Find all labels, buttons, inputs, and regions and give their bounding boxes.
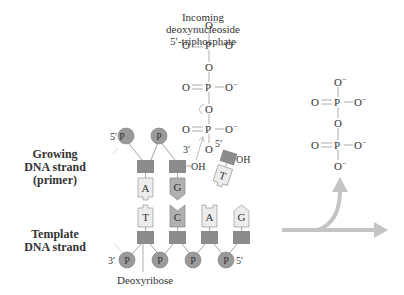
sugar-icon <box>233 231 250 244</box>
svg-text:O: O <box>311 96 319 108</box>
phosphate-label: P <box>157 255 163 266</box>
svg-text:O: O <box>334 117 342 129</box>
svg-text:O−: O− <box>225 38 238 51</box>
primer-3-oh: OH <box>191 161 205 172</box>
svg-text:P: P <box>334 96 340 108</box>
reaction-arrow <box>282 177 388 238</box>
svg-text:O−: O− <box>354 138 367 151</box>
svg-text:P: P <box>334 139 340 151</box>
svg-text:O: O <box>182 123 190 135</box>
template-strand: T C A G <box>115 205 250 272</box>
sugar-icon <box>169 231 186 244</box>
svg-text:O−: O− <box>334 75 347 88</box>
triphosphate-chain: O− OPO− O OPO− O OPO− O <box>182 18 238 160</box>
svg-text:O: O <box>205 143 213 155</box>
sugar-icon <box>169 160 186 173</box>
svg-text:O: O <box>205 61 213 73</box>
sugar-icon <box>220 149 238 165</box>
svg-text:O: O <box>182 81 190 93</box>
sugar-icon <box>137 231 154 244</box>
sugar-icon <box>137 160 154 173</box>
svg-text:O: O <box>311 139 319 151</box>
primer-5-end: 5′ <box>110 131 117 142</box>
release-arrow-shaft <box>318 190 340 230</box>
phosphate-label: P <box>156 131 162 142</box>
svg-text:O: O <box>205 103 213 115</box>
base-label: C <box>174 211 181 223</box>
oxygen-top: O− <box>205 18 218 31</box>
svg-text:P: P <box>205 39 211 51</box>
svg-text:O−: O− <box>334 159 347 172</box>
dna-polymerase-diagram: O− OPO− O OPO− O OPO− O A G 5′ P P 3′ OH <box>0 0 404 295</box>
svg-text:O−: O− <box>225 80 238 93</box>
phosphate-label: P <box>223 255 229 266</box>
svg-text:O−: O− <box>354 95 367 108</box>
incoming-nucleotide: T <box>212 149 237 188</box>
svg-text:O−: O− <box>225 122 238 135</box>
base-label: A <box>142 182 150 194</box>
phosphate-label: P <box>190 255 196 266</box>
arrow-up-icon <box>332 177 348 192</box>
base-label: T <box>142 211 149 223</box>
svg-text:P: P <box>205 81 211 93</box>
base-label: G <box>174 181 182 193</box>
base-label: A <box>206 211 214 223</box>
pyrophosphate: O− OPO− O OPO− O− <box>311 75 367 172</box>
sugar-icon <box>201 231 218 244</box>
deoxyribose-label: Deoxyribose <box>117 274 173 286</box>
svg-text:P: P <box>205 123 211 135</box>
svg-text:O: O <box>182 39 190 51</box>
phosphate-label: P <box>119 131 125 142</box>
phosphate-label: P <box>124 255 130 266</box>
base-label: G <box>238 211 246 223</box>
incoming-oh: OH <box>236 154 250 165</box>
primer-3-end: 3′ <box>183 144 190 155</box>
arrow-right-icon <box>374 222 388 238</box>
template-3-end: 3′ <box>108 255 115 266</box>
incoming-5-end: 5′ <box>215 138 222 149</box>
template-5-end: 5′ <box>236 255 243 266</box>
